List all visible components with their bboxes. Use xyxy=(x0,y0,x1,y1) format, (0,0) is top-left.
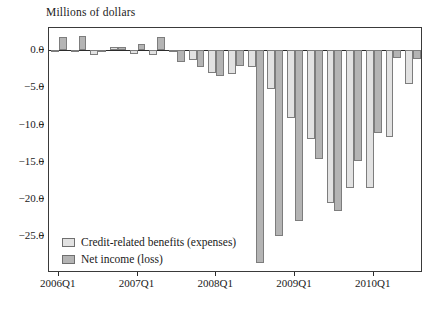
bar xyxy=(208,50,216,73)
y-tick-mark xyxy=(39,198,44,199)
bar xyxy=(71,50,79,52)
bar xyxy=(149,50,157,54)
legend-item-label: Net income (loss) xyxy=(81,253,163,265)
bar xyxy=(405,50,413,84)
bar xyxy=(334,50,342,210)
bar xyxy=(346,50,354,187)
bar xyxy=(118,47,126,51)
bar xyxy=(157,37,165,50)
bar xyxy=(138,44,146,51)
x-tick-label: 2009Q1 xyxy=(276,277,311,289)
x-tick-label: 2006Q1 xyxy=(40,277,75,289)
bar xyxy=(354,50,362,161)
y-tick-mark xyxy=(39,49,44,50)
x-axis: 2006Q12007Q12008Q12009Q12010Q1 xyxy=(48,272,422,300)
bar xyxy=(248,50,256,66)
bar xyxy=(295,50,303,221)
bar xyxy=(169,50,177,52)
y-tick-mark xyxy=(39,161,44,162)
bar xyxy=(374,50,382,133)
bar xyxy=(393,50,401,57)
x-tick-mark xyxy=(373,272,374,276)
bar xyxy=(130,50,138,54)
bar xyxy=(90,50,98,55)
bar xyxy=(256,50,264,262)
x-tick-mark xyxy=(58,272,59,276)
legend-item: Credit-related benefits (expenses) xyxy=(62,234,236,250)
y-tick-mark xyxy=(39,86,44,87)
x-tick-label: 2007Q1 xyxy=(119,277,154,289)
bar xyxy=(267,50,275,89)
bar xyxy=(275,50,283,236)
legend-item-label: Credit-related benefits (expenses) xyxy=(81,236,236,248)
bar xyxy=(110,47,118,50)
bar xyxy=(386,50,394,137)
bar xyxy=(189,50,197,60)
y-tick-mark xyxy=(39,124,44,125)
bar xyxy=(287,50,295,118)
bar xyxy=(366,50,374,188)
bar xyxy=(59,37,67,50)
bar xyxy=(177,50,185,62)
bar xyxy=(197,50,205,66)
legend-swatch-icon xyxy=(62,238,75,247)
bar xyxy=(228,50,236,74)
bar xyxy=(216,50,224,76)
chart-axis-title: Millions of dollars xyxy=(46,6,135,18)
x-tick-label: 2008Q1 xyxy=(198,277,233,289)
x-tick-mark xyxy=(294,272,295,276)
bar xyxy=(51,50,59,52)
x-tick-label: 2010Q1 xyxy=(355,277,390,289)
chart-legend: Credit-related benefits (expenses) Net i… xyxy=(62,234,236,268)
bar xyxy=(413,50,421,59)
bar xyxy=(327,50,335,203)
legend-item: Net income (loss) xyxy=(62,251,236,267)
y-tick-mark xyxy=(39,235,44,236)
legend-swatch-icon xyxy=(62,255,75,264)
bar xyxy=(236,50,244,66)
x-tick-mark xyxy=(215,272,216,276)
chart-container: Millions of dollars 0.0−5.0−10.0−15.0−20… xyxy=(0,0,441,310)
bar xyxy=(98,50,106,52)
x-tick-mark xyxy=(137,272,138,276)
bar xyxy=(315,50,323,159)
y-axis-labels: 0.0−5.0−10.0−15.0−20.0−25.0 xyxy=(0,27,44,272)
bar xyxy=(307,50,315,138)
bar xyxy=(79,36,87,50)
